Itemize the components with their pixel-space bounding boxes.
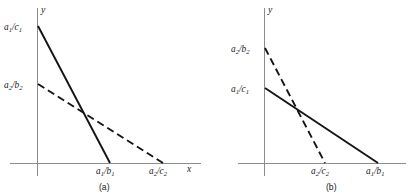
label-sub: 2 xyxy=(326,170,330,177)
label-sub: 1 xyxy=(246,88,249,95)
panel-a-x-axis-label: x xyxy=(186,163,192,174)
panel-b-y-axis-label: y xyxy=(267,4,273,15)
panel-b-x-label-a2-over-c2: a2/c2 xyxy=(311,166,330,177)
panel-a-solid-line xyxy=(38,26,110,163)
panel-a-dashed-line xyxy=(38,84,163,163)
panel-b-solid-line xyxy=(265,88,378,163)
panel-a-x-label-a2-over-c2: a2/c2 xyxy=(149,166,168,177)
panel-b-x-label-a1-over-b1: a1/b1 xyxy=(366,166,385,177)
label-sub: 2 xyxy=(164,170,168,177)
label-sub: 1 xyxy=(111,170,114,177)
label-sub: 2 xyxy=(19,84,23,91)
figure-container: y x a1/c1 a2/b2 a1/b1 a2/c2 (a) y a2/b2 … xyxy=(0,0,414,196)
panel-a-y-label-a2-over-b2: a2/b2 xyxy=(4,80,23,91)
label-sub: 1 xyxy=(381,170,384,177)
label-sub: 2 xyxy=(246,48,250,55)
figure-svg: y x a1/c1 a2/b2 a1/b1 a2/c2 (a) y a2/b2 … xyxy=(0,0,414,196)
panel-a: y x a1/c1 a2/b2 a1/b1 a2/c2 (a) xyxy=(4,4,201,192)
panel-a-y-axis-label: y xyxy=(40,4,46,15)
panel-a-y-label-a1-over-c1: a1/c1 xyxy=(4,22,22,33)
panel-b-y-label-a2-over-b2: a2/b2 xyxy=(231,44,250,55)
panel-a-x-label-a1-over-b1: a1/b1 xyxy=(96,166,115,177)
label-sub: 1 xyxy=(19,26,22,33)
panel-b-y-label-a1-over-c1: a1/c1 xyxy=(231,84,249,95)
panel-b: y a2/b2 a1/c1 a2/c2 a1/b1 (b) xyxy=(231,4,406,192)
panel-b-dashed-line xyxy=(265,48,325,163)
panel-b-caption: (b) xyxy=(326,182,337,192)
panel-a-caption: (a) xyxy=(99,182,110,192)
